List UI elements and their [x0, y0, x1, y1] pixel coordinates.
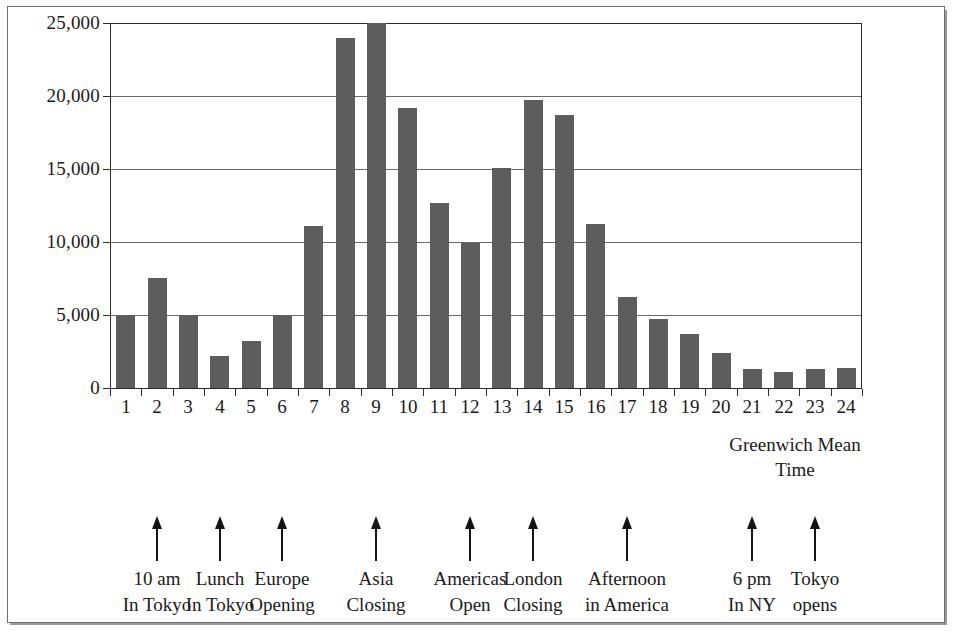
frame-shadow-right	[945, 10, 947, 625]
y-axis-tick-label: 0	[0, 378, 100, 397]
x-axis-tick-mark	[580, 389, 581, 396]
y-axis-tick-mark	[103, 23, 110, 24]
bar	[618, 297, 637, 388]
x-axis-tick-mark	[204, 389, 205, 396]
bar	[743, 369, 762, 388]
x-axis-tick-mark	[267, 389, 268, 396]
x-axis-tick-mark	[298, 389, 299, 396]
bar	[273, 315, 292, 388]
x-axis-tick-mark	[455, 389, 456, 396]
arrow-shaft	[219, 525, 221, 561]
arrow-shaft	[375, 525, 377, 561]
x-axis-tick-label: 24	[826, 396, 866, 418]
y-axis-tick-mark	[103, 315, 110, 316]
y-axis-tick-label-text: 0	[4, 378, 100, 397]
x-axis-tick-mark	[862, 389, 863, 396]
y-axis-tick-label-text: 10,000	[4, 232, 100, 251]
x-axis-tick-mark	[549, 389, 550, 396]
bar	[649, 319, 668, 388]
bar	[806, 369, 825, 388]
x-axis-tick-mark	[423, 389, 424, 396]
x-axis-tick-mark	[173, 389, 174, 396]
x-axis-tick-mark	[799, 389, 800, 396]
bar	[680, 334, 699, 388]
bar	[148, 278, 167, 388]
y-axis-tick-label-text: 15,000	[4, 159, 100, 178]
gmt-line-1: Greenwich Mean	[700, 432, 890, 457]
x-axis-tick-mark	[141, 389, 142, 396]
arrow-shaft	[281, 525, 283, 561]
x-axis-tick-mark	[643, 389, 644, 396]
frame-shadow-bottom	[10, 623, 947, 625]
y-axis-tick-label-text: 5,000	[4, 305, 100, 324]
bar	[304, 226, 323, 388]
bar	[398, 108, 417, 388]
bar	[116, 315, 135, 388]
x-axis-tick-mark	[235, 389, 236, 396]
x-axis-tick-mark	[705, 389, 706, 396]
figure-canvas: 05,00010,00015,00020,00025,000 123456789…	[0, 0, 960, 640]
x-axis-tick-mark	[674, 389, 675, 396]
bar	[430, 203, 449, 388]
arrow-shaft	[751, 525, 753, 561]
arrow-shaft	[469, 525, 471, 561]
bar	[492, 168, 511, 388]
x-axis-tick-mark	[329, 389, 330, 396]
x-axis-tick-mark	[392, 389, 393, 396]
gmt-line-2: Time	[700, 457, 890, 482]
bar	[179, 315, 198, 388]
y-axis-tick-mark	[103, 242, 110, 243]
arrow-shaft	[156, 525, 158, 561]
x-axis-tick-mark	[768, 389, 769, 396]
y-axis-tick-label: 5,000	[0, 305, 100, 324]
bar	[837, 368, 856, 388]
bar	[774, 372, 793, 388]
annotation-label-line-1: Tokyo	[740, 566, 890, 592]
arrow-shaft	[626, 525, 628, 561]
bar	[367, 23, 386, 388]
bar	[524, 100, 543, 388]
bar	[336, 38, 355, 388]
x-axis-tick-mark	[737, 389, 738, 396]
bar	[242, 341, 261, 388]
y-axis-tick-label-text: 25,000	[4, 13, 100, 32]
bar	[555, 115, 574, 388]
x-axis-tick-mark	[110, 389, 111, 396]
plot-border-right	[861, 23, 862, 389]
y-axis-tick-mark	[103, 96, 110, 97]
bar	[712, 353, 731, 388]
arrow-shaft	[814, 525, 816, 561]
x-axis-tick-mark	[486, 389, 487, 396]
x-axis-tick-mark	[361, 389, 362, 396]
y-axis-tick-label: 10,000	[0, 232, 100, 251]
y-axis-tick-label: 25,000	[0, 13, 100, 32]
x-axis-tick-mark	[517, 389, 518, 396]
annotation-label: Tokyoopens	[740, 566, 890, 618]
y-axis-tick-label-text: 20,000	[4, 86, 100, 105]
bar	[461, 243, 480, 388]
x-axis-tick-mark	[611, 389, 612, 396]
bar	[586, 224, 605, 388]
x-axis-title: Greenwich Mean Time	[700, 432, 890, 482]
y-axis-tick-mark	[103, 388, 110, 389]
bars-group	[111, 23, 861, 388]
arrow-shaft	[532, 525, 534, 561]
y-axis-tick-label: 20,000	[0, 86, 100, 105]
annotation-label-line-2: opens	[740, 592, 890, 618]
y-axis-tick-mark	[103, 169, 110, 170]
x-axis-tick-mark	[831, 389, 832, 396]
bar	[210, 356, 229, 388]
y-axis-tick-label: 15,000	[0, 159, 100, 178]
